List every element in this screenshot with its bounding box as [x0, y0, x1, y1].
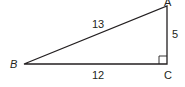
side-label-ab: 13: [92, 18, 104, 30]
right-angle-marker: [159, 56, 167, 64]
vertex-label-b: B: [10, 58, 17, 70]
vertex-label-c: C: [164, 69, 172, 81]
triangle-abc: [24, 6, 167, 64]
side-label-bc: 12: [92, 69, 104, 81]
triangle-diagram: A B C 13 12 5: [0, 0, 185, 87]
side-label-ac: 5: [172, 28, 178, 40]
vertex-label-a: A: [164, 0, 172, 8]
